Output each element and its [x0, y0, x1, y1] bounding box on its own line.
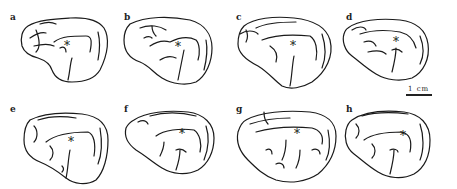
brain-drawing-b	[124, 17, 212, 84]
asterisk-marker-a: *	[64, 40, 70, 52]
brain-drawing-f	[125, 111, 214, 173]
panel-label-c: c	[236, 12, 241, 22]
scale-bar-label: 1 cm	[408, 85, 429, 93]
panel-label-a: a	[10, 12, 16, 22]
brain-drawings	[0, 0, 457, 189]
brain-drawing-h	[345, 111, 430, 177]
brain-drawing-e	[24, 113, 108, 183]
asterisk-marker-f: *	[179, 128, 185, 140]
panel-label-g: g	[236, 104, 242, 114]
scale-bar-line	[406, 94, 432, 96]
panel-label-f: f	[124, 104, 128, 114]
brain-drawing-g	[237, 111, 336, 182]
panel-label-e: e	[10, 104, 16, 114]
asterisk-marker-g: *	[294, 128, 300, 140]
panel-label-h: h	[346, 104, 353, 114]
asterisk-marker-b: *	[175, 41, 181, 53]
asterisk-marker-d: *	[393, 36, 399, 48]
panel-label-b: b	[124, 12, 130, 22]
asterisk-marker-h: *	[400, 130, 406, 142]
brain-drawing-d	[343, 19, 428, 80]
panel-label-d: d	[346, 12, 352, 22]
asterisk-marker-c: *	[290, 40, 296, 52]
asterisk-marker-e: *	[68, 136, 74, 148]
brain-drawing-c	[238, 17, 331, 88]
